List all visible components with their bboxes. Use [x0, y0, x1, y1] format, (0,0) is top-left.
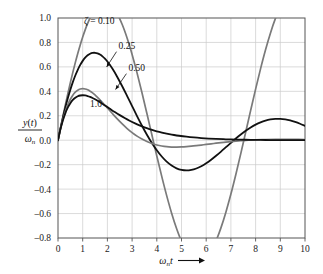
y-tick-label: –0.8: [33, 233, 51, 243]
y-axis-label-numerator: y(t): [22, 117, 37, 129]
y-tick-label: 1.0: [39, 13, 51, 23]
annotation-label: 0.50: [128, 63, 145, 73]
y-tick-label: 0.4: [39, 87, 51, 97]
y-tick-label: –0.4: [33, 185, 51, 195]
y-tick-label: 0.6: [39, 62, 51, 72]
annotation-label: 0.25: [119, 41, 136, 51]
y-tick-label: –0.2: [33, 160, 51, 170]
x-tick-label: 0: [56, 244, 61, 254]
chart-canvas: 1.00.80.60.40.20.0–0.2–0.4–0.6–0.8 01234…: [0, 0, 323, 274]
x-tick-label: 1: [80, 244, 85, 254]
x-tick-label: 6: [204, 244, 209, 254]
x-tick-label: 2: [105, 244, 110, 254]
x-tick-label: 9: [278, 244, 283, 254]
y-tick-label: 0.0: [39, 136, 51, 146]
y-tick-label: 0.8: [39, 38, 51, 48]
impulse-response-chart: 1.00.80.60.40.20.0–0.2–0.4–0.6–0.8 01234…: [0, 0, 323, 274]
x-tick-label: 8: [253, 244, 258, 254]
y-tick-label: –0.6: [33, 209, 51, 219]
annotation-label: ζ = 0.10: [84, 16, 115, 27]
x-tick-label: 5: [179, 244, 184, 254]
annotation-label: 1.0: [90, 99, 102, 109]
x-tick-label: 4: [154, 244, 159, 254]
x-tick-label: 10: [300, 244, 310, 254]
x-tick-label: 3: [130, 244, 135, 254]
x-tick-label: 7: [229, 244, 234, 254]
y-tick-label: 0.2: [39, 111, 51, 121]
